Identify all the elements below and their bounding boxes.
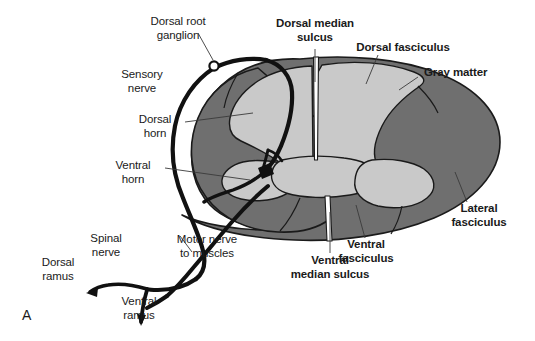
label-sensory-nerve: Sensory nerve bbox=[104, 68, 180, 95]
label-dorsal-fasciculus: Dorsal fasciculus bbox=[348, 41, 458, 55]
label-ventral-ramus: Ventral ramus bbox=[110, 295, 168, 322]
label-dorsal-horn: Dorsal horn bbox=[126, 113, 184, 140]
figure-spinal-cord-cross-section: Dorsal root ganglion Sensory nerve Dorsa… bbox=[0, 0, 535, 341]
label-dorsal-ramus: Dorsal ramus bbox=[30, 256, 86, 283]
label-ventral-horn: Ventral horn bbox=[102, 159, 164, 186]
label-gray-matter: Gray matter bbox=[424, 66, 508, 80]
label-dorsal-median-sulcus: Dorsal median sulcus bbox=[264, 17, 366, 44]
label-lateral-fasciculus: Lateral fasciculus bbox=[440, 202, 518, 229]
dorsal-ramus-path bbox=[90, 284, 147, 292]
label-motor-nerve-to-muscles: Motor nerve to muscles bbox=[166, 233, 248, 260]
label-ventral-median-sulcus: Ventral median sulcus bbox=[272, 254, 388, 281]
sensory-loop-lower-bend bbox=[147, 279, 196, 290]
panel-letter: A bbox=[22, 307, 31, 323]
dorsal-root-ganglion-circle bbox=[209, 61, 218, 70]
label-spinal-nerve: Spinal nerve bbox=[78, 232, 134, 259]
label-dorsal-root-ganglion: Dorsal root ganglion bbox=[132, 15, 224, 42]
dorsal-median-sulcus-cleft bbox=[314, 57, 319, 160]
